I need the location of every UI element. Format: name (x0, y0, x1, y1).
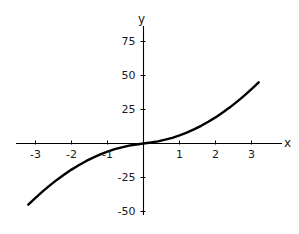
y-axis-label: y (138, 12, 145, 26)
x-tick-label: -1 (94, 148, 122, 161)
y-tick-label: 25 (102, 103, 136, 116)
x-tick-label: 3 (238, 148, 266, 161)
plot-canvas (0, 0, 299, 234)
x-tick-label: 1 (166, 148, 194, 161)
axes-group (16, 26, 282, 215)
y-tick-label: -25 (102, 171, 136, 184)
x-tick-label: -2 (58, 148, 86, 161)
y-tick-label: -50 (102, 205, 136, 218)
x-tick-label: -3 (22, 148, 50, 161)
function-plot: -3-2-1123-50-25255075 y x (0, 0, 299, 234)
x-tick-label: 2 (202, 148, 230, 161)
y-tick-label: 75 (102, 35, 136, 48)
y-tick-label: 50 (102, 69, 136, 82)
x-axis-label: x (284, 136, 291, 150)
